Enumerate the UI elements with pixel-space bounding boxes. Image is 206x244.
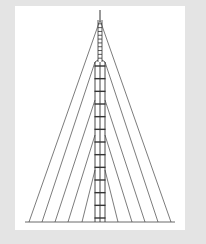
- transition-right: [102, 60, 105, 62]
- guy-wire-right-4: [105, 135, 132, 222]
- guy-wire-left-5: [82, 170, 95, 222]
- guyed-mast-diagram: [0, 0, 206, 244]
- transition-left: [95, 60, 98, 62]
- guy-wire-right-5: [105, 170, 118, 222]
- guy-wire-left-4: [68, 135, 95, 222]
- guy-wire-left-2: [42, 62, 95, 222]
- guy-wire-right-2: [105, 62, 158, 222]
- figure-frame: [0, 0, 206, 244]
- guy-wire-left-3: [55, 100, 95, 222]
- guy-wire-right-3: [105, 100, 145, 222]
- mast: [95, 10, 106, 222]
